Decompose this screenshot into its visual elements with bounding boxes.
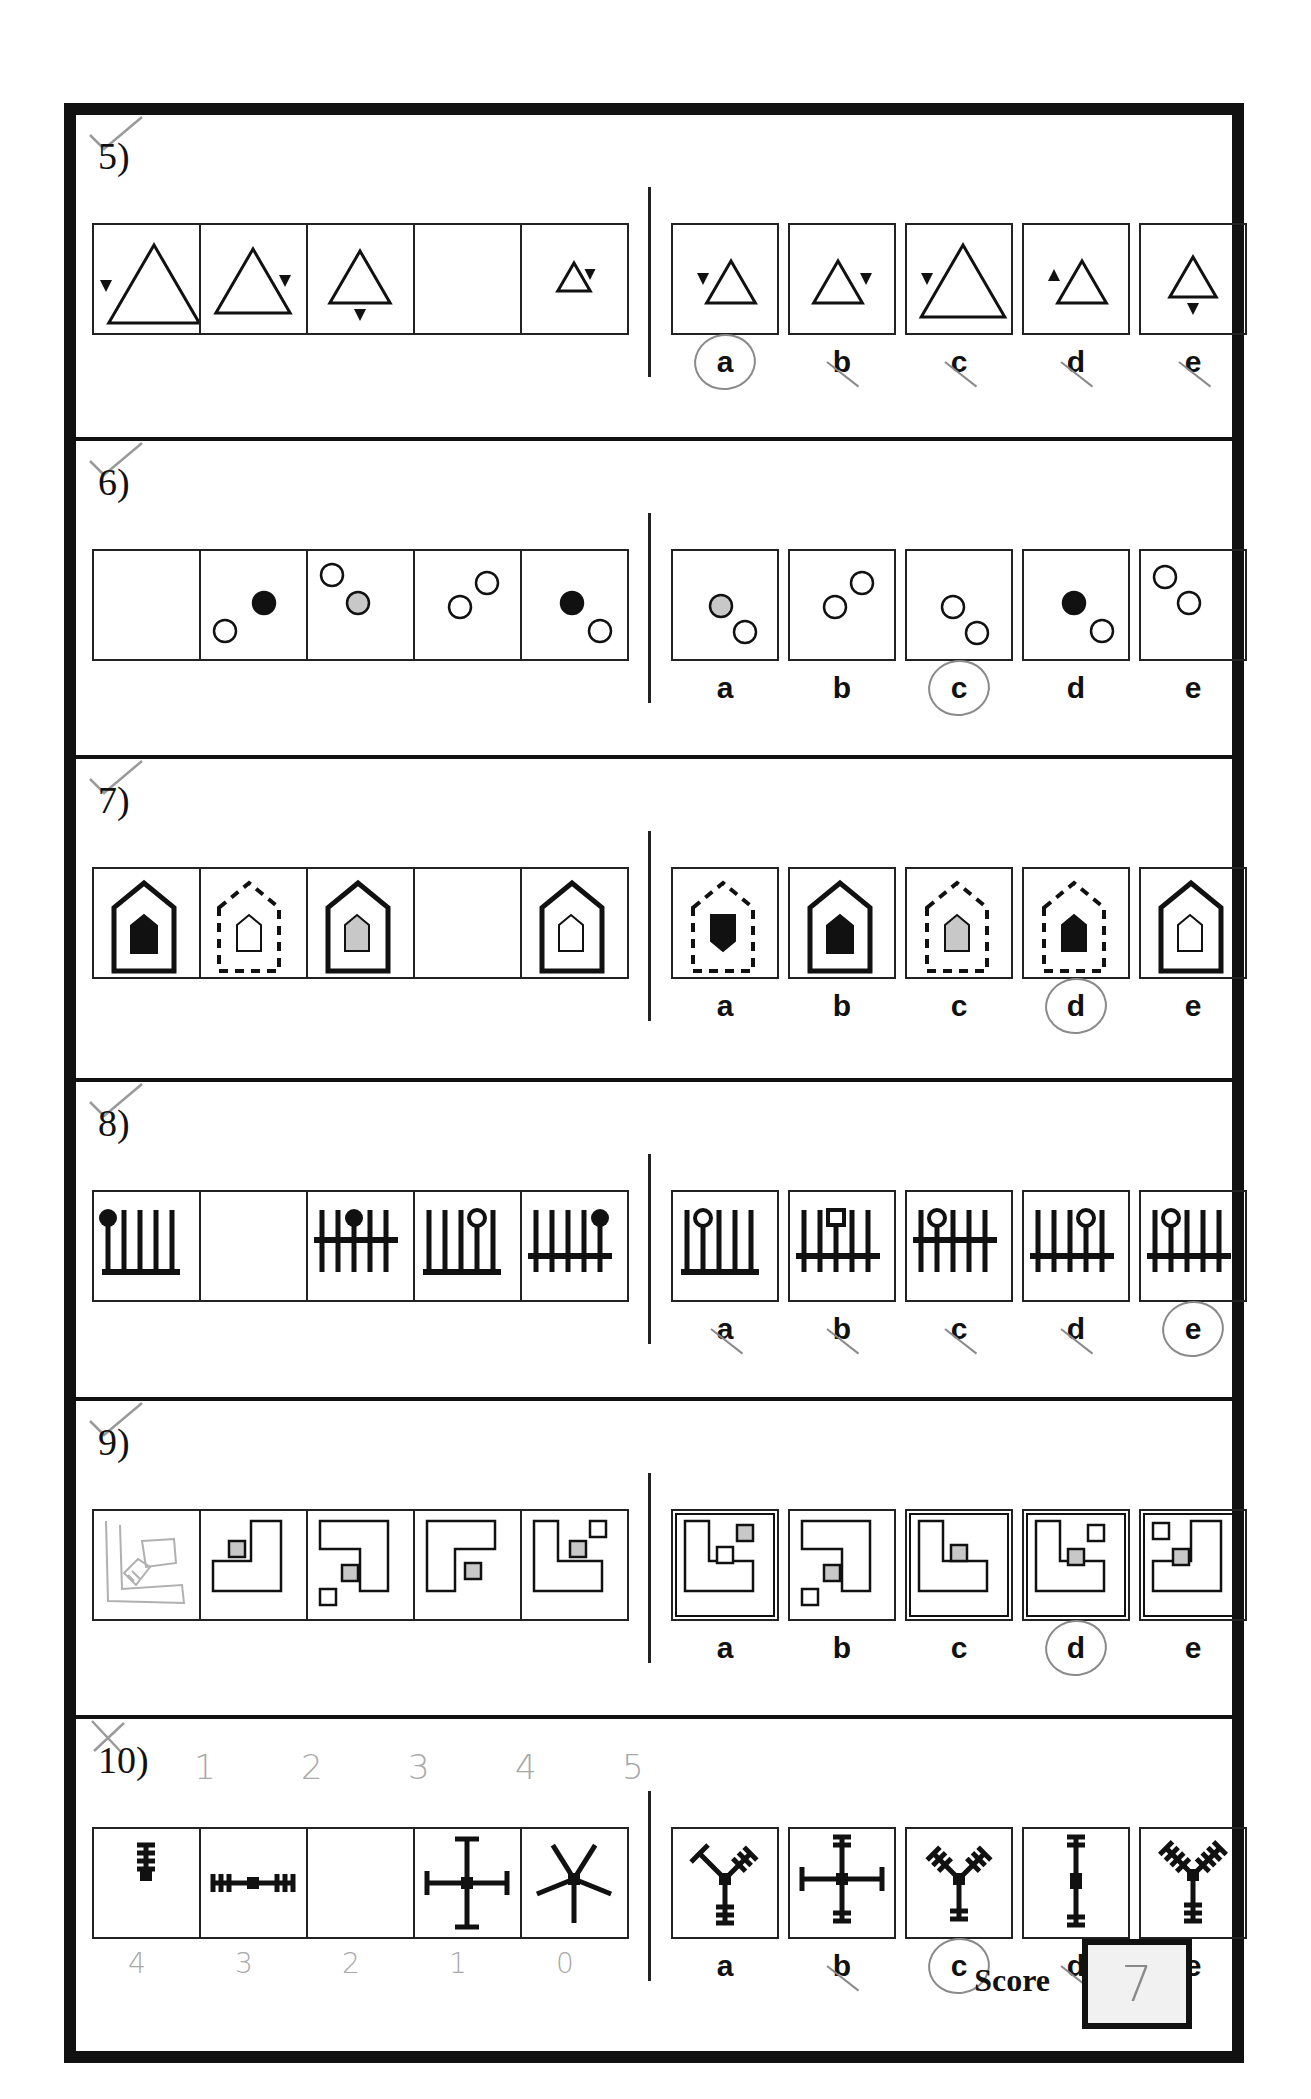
sequence-strip: [92, 1509, 629, 1621]
option-figure-box[interactable]: [671, 1827, 779, 1939]
black-upper-left-white-lower-right-icon: [522, 551, 627, 659]
option-figure-box[interactable]: [1022, 1190, 1130, 1302]
option-label: d: [1067, 1314, 1085, 1344]
answer-option-c[interactable]: c: [905, 549, 1013, 703]
answer-option-b[interactable]: b: [788, 1190, 896, 1344]
answer-option-a[interactable]: a: [671, 223, 779, 377]
option-figure-box[interactable]: [905, 223, 1013, 335]
answer-option-b[interactable]: b: [788, 1509, 896, 1663]
answer-option-e[interactable]: e: [1139, 1190, 1247, 1344]
answer-option-d[interactable]: d: [1022, 549, 1130, 703]
option-label: c: [951, 991, 968, 1021]
sequence-cell: [522, 225, 627, 333]
option-figure-box[interactable]: [671, 549, 779, 661]
answer-option-a[interactable]: a: [671, 1827, 779, 1981]
answer-option-b[interactable]: b: [788, 867, 896, 1021]
sequence-cell: [94, 1192, 201, 1300]
option-figure-box[interactable]: [1022, 867, 1130, 979]
white-upper-left-white-lower-right-icon: [907, 551, 1011, 659]
handwritten-annotation: 4: [128, 1947, 146, 1980]
answer-options: a b c d e: [671, 1509, 1247, 1663]
option-figure-box[interactable]: [1139, 223, 1247, 335]
option-figure-box[interactable]: [788, 223, 896, 335]
option-figure-box[interactable]: [905, 1190, 1013, 1302]
answer-option-b[interactable]: b: [788, 549, 896, 703]
answer-option-e[interactable]: e: [1139, 867, 1247, 1021]
comb-low-white-knob-2-icon: [1141, 1192, 1245, 1300]
sequence-cell: [522, 551, 627, 659]
answer-option-e[interactable]: e: [1139, 223, 1247, 377]
sequence-cell: [308, 1192, 415, 1300]
answer-option-c[interactable]: c: [905, 1190, 1013, 1344]
option-figure-box[interactable]: [788, 867, 896, 979]
pencil-sketch-icon: [94, 1511, 199, 1619]
option-label: c: [951, 1633, 968, 1663]
option-figure-box[interactable]: [1139, 1509, 1247, 1621]
option-figure-box[interactable]: [671, 223, 779, 335]
answer-option-d[interactable]: d: [1022, 1509, 1130, 1663]
sequence-cell: [522, 1829, 627, 1937]
answer-option-c[interactable]: c: [905, 223, 1013, 377]
option-figure-box[interactable]: [1139, 1827, 1247, 1939]
sequence-cell: [308, 225, 415, 333]
divider-line: [648, 1473, 651, 1663]
option-figure-box[interactable]: [1022, 549, 1130, 661]
divider-line: [648, 1154, 651, 1344]
option-label: a: [717, 1951, 734, 1981]
answer-option-c[interactable]: c: [905, 1827, 1013, 1981]
score-label: Score: [974, 1962, 1050, 1999]
two-arms-three-bars-icon: [201, 1829, 306, 1937]
triangle-bottom-marker-icon: [308, 225, 413, 333]
y-two-bars-icon: [907, 1829, 1011, 1937]
option-label: d: [1067, 1633, 1085, 1663]
answer-option-a[interactable]: a: [671, 1509, 779, 1663]
option-figure-box[interactable]: [788, 1509, 896, 1621]
option-figure-box[interactable]: [905, 1509, 1013, 1621]
blank-cell: [94, 551, 201, 659]
answer-option-a[interactable]: a: [671, 549, 779, 703]
option-label: a: [717, 1314, 734, 1344]
option-figure-box[interactable]: [788, 1190, 896, 1302]
answer-option-e[interactable]: e: [1139, 549, 1247, 703]
option-figure-box[interactable]: [905, 867, 1013, 979]
handwritten-annotation: 4: [515, 1747, 537, 1787]
answer-option-d[interactable]: d: [1022, 867, 1130, 1021]
option-figure-box[interactable]: [1139, 549, 1247, 661]
option-figure-box[interactable]: [788, 1827, 896, 1939]
answer-option-a[interactable]: a: [671, 1190, 779, 1344]
option-label: a: [717, 673, 734, 703]
option-figure-box[interactable]: [671, 1509, 779, 1621]
option-figure-box[interactable]: [1022, 223, 1130, 335]
single-arm-four-bars-icon: [94, 1829, 199, 1937]
option-figure-box[interactable]: [1022, 1827, 1130, 1939]
sequence-cell: [94, 869, 201, 977]
answer-option-d[interactable]: d: [1022, 1190, 1130, 1344]
option-figure-box[interactable]: [1139, 1190, 1247, 1302]
option-label: d: [1067, 347, 1085, 377]
option-figure-box[interactable]: [905, 549, 1013, 661]
score-box[interactable]: 7: [1082, 1939, 1192, 2029]
option-label: a: [717, 1633, 734, 1663]
answer-option-c[interactable]: c: [905, 1509, 1013, 1663]
triangle-left-marker-up-icon: [1024, 225, 1128, 333]
option-figure-box[interactable]: [671, 867, 779, 979]
answer-option-c[interactable]: c: [905, 867, 1013, 1021]
answer-option-d[interactable]: d: [1022, 223, 1130, 377]
sequence-strip: [92, 549, 629, 661]
option-figure-box[interactable]: [905, 1827, 1013, 1939]
question-row: 10) a b c d e 1234543210Score7: [76, 1715, 1232, 2051]
blank-cell: [201, 1192, 308, 1300]
option-figure-box[interactable]: [788, 549, 896, 661]
answer-option-b[interactable]: b: [788, 223, 896, 377]
white-lower-left-white-upper-right-icon: [790, 551, 895, 659]
option-figure-box[interactable]: [1022, 1509, 1130, 1621]
hook-grey-square-white-square-icon: [790, 1511, 895, 1619]
option-figure-box[interactable]: [1139, 867, 1247, 979]
answer-option-b[interactable]: b: [788, 1827, 896, 1981]
vertical-two-bars-icon: [1024, 1829, 1128, 1937]
option-figure-box[interactable]: [671, 1190, 779, 1302]
sequence-cell: [201, 1829, 308, 1937]
answer-option-a[interactable]: a: [671, 867, 779, 1021]
handwritten-annotation: 2: [301, 1747, 323, 1787]
answer-option-e[interactable]: e: [1139, 1509, 1247, 1663]
